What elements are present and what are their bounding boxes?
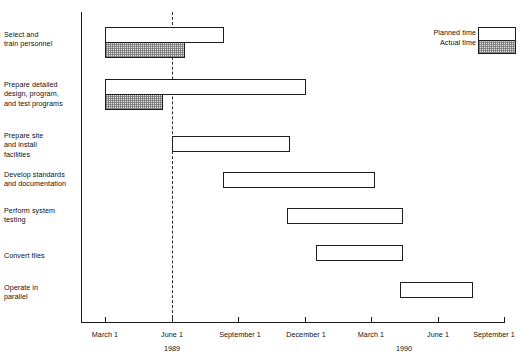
x-tick-label-september-1-1990: September 1 (473, 330, 515, 339)
task-label-line: testing (4, 215, 78, 224)
task-label-prepare-site: Prepare site and install facilities (4, 131, 78, 159)
x-tick-label-june-1-1989: June 1 (161, 330, 183, 339)
task-label-prepare-design: Prepare detailed design, program, and te… (4, 80, 78, 108)
x-tick-label-june-1-1990: June 1 (427, 330, 449, 339)
bar-actual-select-train[interactable] (105, 42, 185, 58)
legend-swatch-actual (478, 40, 516, 54)
bar-planned-prepare-site[interactable] (172, 136, 290, 152)
x-axis-left-cap (81, 317, 82, 322)
bar-planned-develop-standards[interactable] (223, 172, 375, 188)
task-label-line: Prepare site (4, 131, 78, 140)
x-tick-label-march-1-1989: March 1 (92, 330, 118, 339)
task-label-perform-testing: Perform system testing (4, 206, 78, 225)
task-label-line: Perform system (4, 206, 78, 215)
x-axis-tick-4 (371, 317, 372, 322)
bar-planned-prepare-design[interactable] (105, 79, 306, 95)
bar-planned-operate-parallel[interactable] (400, 282, 473, 298)
legend-swatch-planned (478, 27, 516, 41)
task-label-line: Prepare detailed (4, 80, 78, 89)
x-axis-tick-2 (238, 317, 239, 322)
task-label-line: and test programs (4, 99, 78, 108)
gantt-chart: Select and train personnel Prepare detai… (0, 0, 523, 359)
task-label-line: parallel (4, 292, 78, 301)
x-axis-tick-0 (105, 317, 106, 322)
y-axis-line (81, 12, 82, 323)
task-label-line: design, program, (4, 89, 78, 98)
task-label-line: Select and (4, 30, 78, 39)
task-label-develop-standards: Develop standards and documentation (4, 170, 82, 189)
bar-actual-prepare-design[interactable] (105, 94, 163, 110)
task-label-line: Convert files (4, 251, 78, 260)
legend-label-actual: Actual time (440, 38, 476, 47)
legend: Planned time Actual time (440, 27, 518, 57)
x-axis-right-cap (504, 317, 505, 322)
task-label-line: and documentation (4, 179, 82, 188)
task-label-operate-parallel: Operate in parallel (4, 283, 78, 302)
bar-planned-convert-files[interactable] (316, 245, 403, 261)
status-date-line (172, 12, 173, 323)
x-tick-label-december-1-1989: December 1 (286, 330, 326, 339)
task-label-select-train: Select and train personnel (4, 30, 78, 49)
year-label-1989: 1989 (164, 344, 180, 353)
task-label-line: Operate in (4, 283, 78, 292)
x-axis-line (81, 322, 505, 323)
x-axis-tick-5 (438, 317, 439, 322)
task-label-line: train personnel (4, 39, 78, 48)
task-label-line: and install (4, 140, 78, 149)
task-label-line: facilities (4, 150, 78, 159)
bar-planned-perform-testing[interactable] (287, 208, 403, 224)
task-label-line: Develop standards (4, 170, 82, 179)
task-label-convert-files: Convert files (4, 251, 78, 260)
x-tick-label-september-1-1989: September 1 (219, 330, 261, 339)
year-label-1990: 1990 (396, 344, 412, 353)
legend-label-planned: Planned time (433, 28, 476, 37)
bar-planned-select-train[interactable] (105, 27, 224, 43)
x-axis-tick-3 (305, 317, 306, 322)
x-tick-label-march-1-1990: March 1 (358, 330, 384, 339)
